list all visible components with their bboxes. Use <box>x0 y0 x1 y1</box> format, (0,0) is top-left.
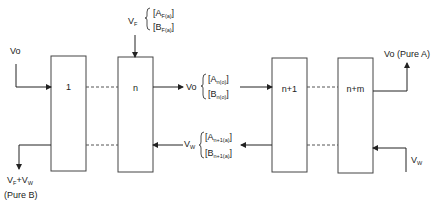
countercurrent-extraction-diagram: 1 n n+1 n+m Vo VF [AF(a)] [BF(a)] Vo [An… <box>0 0 436 204</box>
svg-text:VF: VF <box>128 16 138 27</box>
svg-text:n+m: n+m <box>347 84 365 94</box>
stage-1-box: 1 <box>51 56 86 171</box>
svg-text:VF+VW: VF+VW <box>7 175 34 186</box>
svg-text:[Bn+1(a)]: [Bn+1(a)] <box>205 148 232 159</box>
svg-text:[An(o)]: [An(o)] <box>208 74 229 85</box>
svg-text:n+1: n+1 <box>282 84 297 94</box>
svg-text:[BF(a)]: [BF(a)] <box>153 22 174 33</box>
vo-inlet-arrow: Vo <box>10 46 51 87</box>
vo-mid-outlet: Vo [An(o)] [Bn(o)] <box>153 74 229 100</box>
svg-text:[AF(a)]: [AF(a)] <box>153 8 174 19</box>
svg-text:VW: VW <box>411 155 423 166</box>
stage-n-box: n <box>118 57 153 172</box>
svg-text:(Pure B): (Pure B) <box>4 190 38 200</box>
svg-text:Vo: Vo <box>10 46 21 56</box>
feed-vf-arrow: VF [AF(a)] [BF(a)] <box>128 8 174 57</box>
svg-text:1: 1 <box>66 82 71 92</box>
svg-text:[Bn(o)]: [Bn(o)] <box>208 89 229 100</box>
stage-n-plus-1-box: n+1 <box>272 58 307 172</box>
stage-n-plus-m-box: n+m <box>338 58 373 173</box>
svg-text:Vo: Vo <box>186 82 197 92</box>
pure-a-outlet: Vo (Pure A) <box>373 49 430 91</box>
svg-text:VW: VW <box>184 139 196 150</box>
svg-text:[An+1(a)]: [An+1(a)] <box>205 132 232 143</box>
vw-inlet-arrow: VW <box>373 148 423 172</box>
vw-mid-inlet: VW [An+1(a)] [Bn+1(a)] <box>153 132 232 159</box>
pure-b-outlet: VF+VW (Pure B) <box>4 145 51 200</box>
svg-text:n: n <box>133 83 138 93</box>
svg-text:Vo (Pure A): Vo (Pure A) <box>384 49 430 59</box>
